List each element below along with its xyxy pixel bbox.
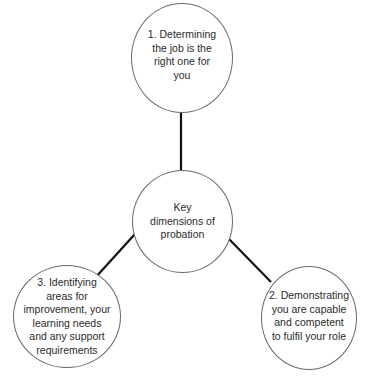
node-3-label: 3. Identifying areas for improvement, yo…: [24, 276, 111, 357]
node-3-identifying-areas: 3. Identifying areas for improvement, yo…: [13, 265, 121, 368]
center-node-key-dimensions: Key dimensions of probation: [132, 170, 233, 273]
node-1-label: 1. Determining the job is the right one …: [148, 28, 216, 82]
node-2-label: 2. Demonstrating you are capable and com…: [269, 289, 349, 343]
edge-center-to-node-3: [95, 234, 135, 278]
node-1-determining-job: 1. Determining the job is the right one …: [131, 3, 233, 113]
center-node-label: Key dimensions of probation: [150, 201, 215, 242]
edge-center-to-node-2: [228, 238, 271, 282]
node-2-demonstrating-capability: 2. Demonstrating you are capable and com…: [261, 266, 357, 370]
